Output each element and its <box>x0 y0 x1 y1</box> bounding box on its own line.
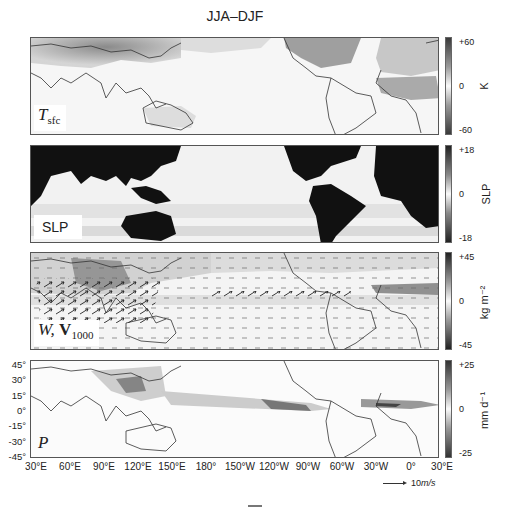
y-tick: -30° <box>2 436 26 447</box>
figure-title: JJA–DJF <box>0 8 470 24</box>
vector-key-label: 10m/s <box>411 478 436 488</box>
y-tick: 30° <box>2 374 26 385</box>
cbar-p-max: +25 <box>459 360 474 370</box>
x-tick: 90°E <box>93 461 115 472</box>
p-map <box>31 361 439 458</box>
y-tick: 0° <box>2 405 26 416</box>
x-tick: 60°E <box>59 461 81 472</box>
colorbar-w <box>445 252 452 350</box>
cbar-slp-min: -18 <box>459 233 472 243</box>
cbar-slp-unit: SLP <box>480 184 492 205</box>
y-tick: -15° <box>2 420 26 431</box>
x-tick: 60°W <box>330 461 355 472</box>
cbar-p-min: -25 <box>459 448 472 458</box>
panel-label-slp: SLP <box>34 215 82 239</box>
cbar-w-unit: kg m⁻² <box>478 286 491 320</box>
x-tick: 120°W <box>259 461 289 472</box>
colorbar-tsfc <box>445 37 452 135</box>
panel-w-v1000: W, V1000 <box>30 252 439 350</box>
colorbar-slp <box>445 145 452 243</box>
panel-p: P <box>30 360 439 458</box>
x-tick: 150°E <box>158 461 185 472</box>
cbar-w-mid: 0 <box>459 296 464 306</box>
cbar-tsfc-mid: 0 <box>459 81 464 91</box>
x-tick: 180° <box>196 461 217 472</box>
panel-tsfc: Tsfc <box>30 37 439 135</box>
x-tick: 30°E <box>25 461 47 472</box>
cbar-w-min: -45 <box>459 340 472 350</box>
tsfc-map <box>31 38 439 135</box>
panel-label-w-v1000: W, V1000 <box>34 320 99 346</box>
x-tick: 0° <box>406 461 416 472</box>
x-tick: 150°W <box>225 461 255 472</box>
x-tick: 120°E <box>124 461 151 472</box>
cbar-slp-mid: 0 <box>459 189 464 199</box>
x-tick: 30°W <box>364 461 389 472</box>
cbar-tsfc-min: -60 <box>459 125 472 135</box>
cbar-p-mid: 0 <box>459 404 464 414</box>
y-tick: -45° <box>2 451 26 462</box>
colorbar-p <box>445 360 452 458</box>
vector-arrow-icon <box>383 483 405 484</box>
y-tick: 15° <box>2 390 26 401</box>
y-tick: 45° <box>2 359 26 370</box>
decorative-bar <box>248 505 262 507</box>
slp-map <box>31 146 439 243</box>
panel-slp: SLP <box>30 145 439 243</box>
panel-label-tsfc: Tsfc <box>34 105 66 131</box>
cbar-tsfc-max: +60 <box>459 37 474 47</box>
panel-label-p: P <box>34 433 54 454</box>
vector-key: 10m/s <box>383 478 436 488</box>
x-tick: 90°W <box>296 461 321 472</box>
cbar-w-max: +45 <box>459 252 474 262</box>
x-tick: 30°E <box>431 461 453 472</box>
cbar-p-unit: mm d⁻¹ <box>478 392 491 429</box>
cbar-slp-max: +18 <box>459 145 474 155</box>
cbar-tsfc-unit: K <box>478 82 490 89</box>
